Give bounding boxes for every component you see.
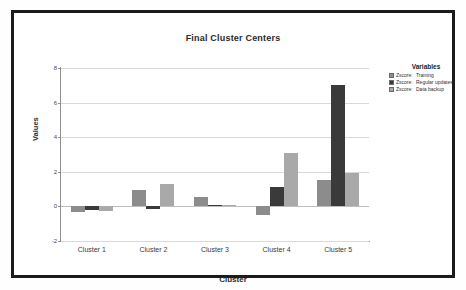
bar <box>194 197 208 207</box>
bar <box>146 206 160 209</box>
chart-frame: Final Cluster Centers Values Cluster -20… <box>11 10 455 278</box>
legend-swatch-icon <box>389 73 394 78</box>
bar <box>284 153 298 207</box>
x-axis-tick-label: Cluster 2 <box>123 246 185 253</box>
legend-swatch-icon <box>389 87 394 92</box>
y-axis-tick-label: 4 <box>54 134 57 140</box>
y-axis-tick-label: 2 <box>54 169 57 175</box>
bar <box>71 206 85 211</box>
bar <box>270 187 284 206</box>
legend-entry: Zscore:Regular updates <box>389 79 466 85</box>
legend-entry: Zscore:Data backup <box>389 86 466 92</box>
x-axis-tick-label: Cluster 5 <box>307 246 369 253</box>
y-axis-tick-mark <box>58 241 61 242</box>
legend: Variables Zscore:TrainingZscore:Regular … <box>389 63 466 93</box>
bar <box>85 206 99 209</box>
y-axis-label: Values <box>31 117 40 141</box>
legend-entry-prefix: Zscore: <box>396 72 416 78</box>
chart-title: Final Cluster Centers <box>14 33 452 43</box>
bar <box>317 180 331 206</box>
bar-groups <box>61 68 369 241</box>
legend-entry-label: Training <box>416 72 434 78</box>
bar <box>99 206 113 211</box>
y-axis-tick-label: 8 <box>54 65 57 71</box>
bar <box>222 205 236 207</box>
legend-entry-prefix: Zscore: <box>396 86 416 92</box>
bar-group <box>246 68 308 241</box>
bar <box>160 184 174 206</box>
legend-entry: Zscore:Training <box>389 72 466 78</box>
bar <box>208 205 222 206</box>
chart-screenshot: Final Cluster Centers Values Cluster -20… <box>0 0 466 290</box>
x-axis-label: Cluster <box>14 275 452 284</box>
legend-entry-label: Regular updates <box>416 79 453 85</box>
bar-group <box>184 68 246 241</box>
x-axis-tick-label: Cluster 1 <box>61 246 123 253</box>
legend-entry-prefix: Zscore: <box>396 79 416 85</box>
legend-swatch-icon <box>389 80 394 85</box>
bar-group <box>307 68 369 241</box>
x-axis-tick-labels: Cluster 1Cluster 2Cluster 3Cluster 4Clus… <box>61 246 369 253</box>
bar <box>256 206 270 215</box>
bar <box>331 85 345 206</box>
y-axis-tick-label: -2 <box>52 238 57 244</box>
legend-entries: Zscore:TrainingZscore:Regular updatesZsc… <box>389 72 466 92</box>
legend-title: Variables <box>389 63 463 70</box>
y-axis-tick-label: 6 <box>54 100 57 106</box>
x-axis-tick-label: Cluster 4 <box>246 246 308 253</box>
plot-area: -202468 <box>61 68 369 241</box>
bar-group <box>61 68 123 241</box>
gridline <box>61 241 369 242</box>
bar <box>132 190 146 206</box>
x-axis-tick-label: Cluster 3 <box>184 246 246 253</box>
legend-entry-label: Data backup <box>416 86 444 92</box>
bar-group <box>123 68 185 241</box>
bar <box>345 173 359 207</box>
y-axis-tick-label: 0 <box>54 203 57 209</box>
